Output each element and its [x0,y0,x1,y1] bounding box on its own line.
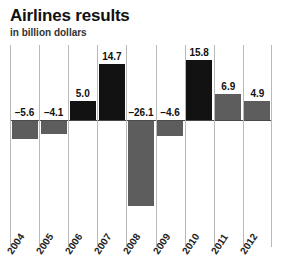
bar-2005 [41,121,67,134]
x-axis-label-2007: 2007 [92,231,114,256]
bar-2007 [99,64,125,120]
bar-value-label-2012: 4.9 [243,88,272,99]
bar-2010 [186,60,212,120]
x-axis-tick [271,213,272,247]
x-axis-label-2005: 2005 [34,231,56,256]
x-axis-label-2009: 2009 [150,231,172,256]
bar-2011 [215,94,241,120]
bar-series: –5.6–4.15.014.7–26.1–4.615.86.94.9 [10,45,272,213]
chart-figure: Airlines results in billion dollars –5.6… [0,0,281,262]
x-axis-label-2010: 2010 [180,231,202,256]
chart-header: Airlines results in billion dollars [10,6,275,39]
bar-2004 [12,121,38,139]
x-axis: 200420052006200720082009201020112012 [10,213,272,259]
bar-2008 [128,121,154,206]
bar-2012 [244,101,270,120]
bar-value-label-2007: 14.7 [97,51,126,62]
bar-value-label-2011: 6.9 [214,81,243,92]
bar-2006 [70,101,96,120]
bar-value-label-2008: –26.1 [126,107,155,118]
bar-value-label-2006: 5.0 [68,88,97,99]
chart-title: Airlines results [10,6,275,25]
bar-value-label-2004: –5.6 [10,107,39,118]
bar-value-label-2005: –4.1 [39,107,68,118]
chart-subtitle: in billion dollars [10,27,275,39]
x-axis-label-2006: 2006 [63,231,85,256]
x-axis-label-2008: 2008 [121,231,143,256]
x-axis-label-2011: 2011 [209,232,230,256]
x-axis-label-2004: 2004 [5,231,27,256]
bar-value-label-2010: 15.8 [185,47,214,58]
bar-value-label-2009: –4.6 [156,107,185,118]
bar-2009 [157,121,183,136]
plot-area: –5.6–4.15.014.7–26.1–4.615.86.94.9 [10,45,272,213]
x-axis-label-2012: 2012 [238,231,260,256]
